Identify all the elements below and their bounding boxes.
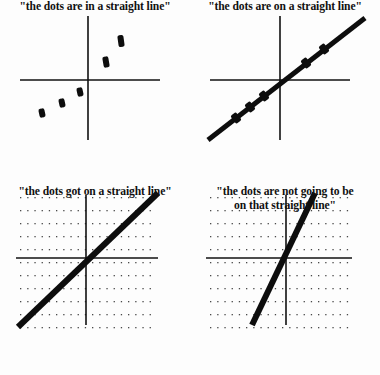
scatter-plot-3 xyxy=(0,185,190,335)
data-dot xyxy=(102,56,110,68)
trend-line xyxy=(18,193,158,327)
panel-dots-are-in-straight-line: "the dots are in a straight line" xyxy=(0,0,190,188)
meme-image: "the dots are in a straight line" "the d… xyxy=(0,0,380,375)
panel-caption-4: "the dots are not going to be on that st… xyxy=(190,185,380,212)
panel-dots-got-on-straight-line: "the dots got on a straight line" xyxy=(0,185,190,373)
panel-caption-2: "the dots are on a straight line" xyxy=(190,0,380,14)
data-dot xyxy=(117,35,125,48)
panel-caption-3: "the dots got on a straight line" xyxy=(0,185,190,199)
data-dot xyxy=(58,98,66,108)
panel-dots-not-going-to-be-on-line: "the dots are not going to be on that st… xyxy=(190,185,380,373)
data-dot xyxy=(38,108,46,118)
panel-dots-are-on-straight-line: "the dots are on a straight line" xyxy=(190,0,380,188)
trend-line xyxy=(208,18,365,140)
panel-caption-1: "the dots are in a straight line" xyxy=(0,0,190,14)
trend-line xyxy=(252,193,315,325)
scatter-plot-1 xyxy=(0,0,190,150)
data-dot xyxy=(76,87,84,97)
scatter-plot-2 xyxy=(190,0,380,150)
